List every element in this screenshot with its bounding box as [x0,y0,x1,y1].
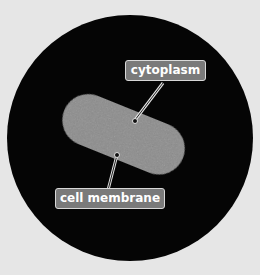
cell-membrane-label: cell membrane [55,188,165,209]
cytoplasm-label: cytoplasm [125,60,206,81]
diagram-graphic [0,0,260,275]
microscope-view-diagram: cytoplasm cell membrane [0,0,260,275]
